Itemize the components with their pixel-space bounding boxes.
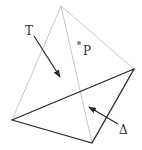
- point-p: [77, 41, 81, 45]
- edge-apex-right: [61, 6, 134, 69]
- arrow-t: [34, 36, 60, 77]
- label-p: P: [83, 44, 91, 58]
- label-t: T: [25, 24, 33, 38]
- tetrahedron-diagram: P T Δ: [0, 0, 142, 150]
- edge-apex-bottom: [61, 6, 92, 143]
- triangle-delta: [12, 69, 134, 143]
- label-delta: Δ: [119, 123, 128, 137]
